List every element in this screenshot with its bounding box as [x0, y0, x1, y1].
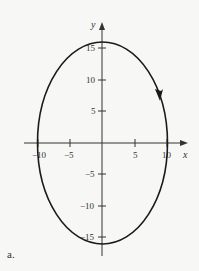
y-tick-label: −10 [80, 201, 95, 211]
y-axis-label: y [90, 19, 96, 30]
x-tick-label: 5 [133, 150, 138, 160]
x-tick-label: −10 [32, 150, 47, 160]
x-axis-label: x [182, 149, 188, 160]
y-tick-label: −5 [85, 169, 95, 179]
y-tick-label: 10 [86, 75, 96, 85]
y-tick-label: 5 [91, 106, 96, 116]
y-axis-arrow-icon [99, 22, 105, 30]
panel-label: a. [7, 248, 15, 260]
ellipse-chart: −10 −5 5 10 x 15 10 5 −5 −10 −15 y a. [0, 0, 199, 271]
x-tick-label: −5 [64, 150, 74, 160]
x-axis-arrow-icon [180, 140, 188, 146]
